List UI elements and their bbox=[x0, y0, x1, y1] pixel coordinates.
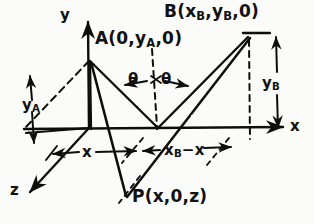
dimension-xB-minus-x-label: xB−x bbox=[164, 141, 205, 159]
point-B-open: (x bbox=[177, 1, 196, 21]
y-axis-line bbox=[88, 22, 89, 128]
dimension-x-label: x bbox=[82, 143, 92, 161]
y-axis-label: y bbox=[60, 6, 70, 24]
dimension-xB-script: B bbox=[174, 148, 182, 159]
dimension-y-B-script: B bbox=[272, 81, 280, 92]
normal-line-dashed bbox=[152, 49, 157, 127]
segment-A-drop bbox=[90, 61, 91, 129]
point-B-label: B(xB,yB,0) bbox=[164, 1, 259, 23]
angle-theta-left-label: θ bbox=[128, 70, 139, 88]
point-B-mid: ,y bbox=[205, 1, 223, 21]
point-A-label: A(0,yA,0) bbox=[95, 28, 182, 50]
back-plane-dashed-edge bbox=[25, 61, 89, 128]
z-axis-line bbox=[30, 128, 89, 192]
dimension-y-A-label: yA bbox=[22, 96, 40, 114]
dimension-y-B-label: yB bbox=[262, 74, 280, 92]
point-B-close: ,0) bbox=[232, 1, 259, 21]
point-A-letter: A bbox=[95, 28, 108, 48]
point-P-label: P(x,0,z) bbox=[132, 186, 207, 206]
point-A-open: (0, bbox=[108, 28, 135, 48]
dimension-y-A-script: A bbox=[32, 103, 40, 114]
dimension-y-A-base: y bbox=[22, 96, 32, 114]
x-axis-line bbox=[24, 127, 283, 129]
angle-center-tick bbox=[151, 76, 161, 83]
z-axis-label: z bbox=[10, 181, 19, 199]
dimension-xB-base: x bbox=[164, 141, 174, 159]
point-B-sub2: B bbox=[223, 9, 232, 23]
point-B-sub1: B bbox=[196, 9, 205, 23]
dimension-x-line bbox=[53, 151, 136, 154]
x-axis-label: x bbox=[290, 117, 300, 135]
diagram-canvas: y x z A(0,yA,0) B(xB,yB,0) P(x,0,z) θ θ … bbox=[0, 0, 314, 224]
segment-B-drop-dashed bbox=[249, 40, 250, 139]
point-A-close: ,0) bbox=[155, 28, 182, 48]
point-A-sub-base: y bbox=[135, 28, 146, 48]
dimension-y-B-base: y bbox=[262, 74, 272, 92]
dimension-xB-rest: −x bbox=[182, 141, 205, 159]
segment-A-to-foot bbox=[91, 62, 158, 128]
point-B-letter: B bbox=[164, 1, 177, 21]
segment-B-to-P bbox=[127, 38, 250, 197]
point-P-letter: P bbox=[132, 186, 145, 206]
z-parallel-dashed-at-xB bbox=[207, 138, 229, 165]
point-P-coords: (x,0,z) bbox=[145, 186, 208, 206]
angle-theta-right-label: θ bbox=[161, 70, 172, 88]
